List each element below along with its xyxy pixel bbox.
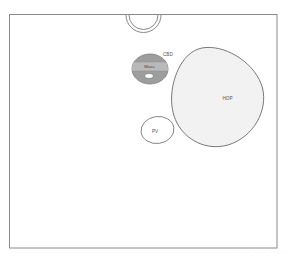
mass-label: Mass [144,64,154,69]
anatomical-diagram: HOP Mass CBD PV [0,0,292,257]
cbd-lumen [145,74,154,79]
top-vessel-ring [126,0,161,33]
cbd-label: CBD [163,52,173,57]
figure-caption-fragment: . . . . . . . . . . . . . . . , . . [160,249,285,255]
pv-label: PV [152,129,159,134]
hop-label: HOP [223,96,233,101]
